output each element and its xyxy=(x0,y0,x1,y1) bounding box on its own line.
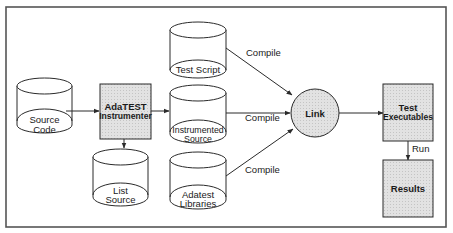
source-code-cylinder: Source Code xyxy=(17,78,72,135)
instrumenter-label-2: Instrumenter xyxy=(99,111,152,121)
compile-label-3: Compile xyxy=(245,164,280,175)
run-label: Run xyxy=(412,143,429,154)
test-script-label: Test Script xyxy=(176,64,221,75)
compile-label-2: Compile xyxy=(245,112,280,123)
test-executables-box: Test Executables xyxy=(383,84,433,141)
adatest-libraries-label-2: Libraries xyxy=(180,198,217,209)
results-box: Results xyxy=(383,160,433,217)
instrumented-source-cylinder: Instrumented Source xyxy=(170,85,226,144)
instrumenter-box: AdaTEST Instrumenter xyxy=(99,84,152,139)
instrumented-source-label-2: Source xyxy=(184,134,212,144)
link-label: Link xyxy=(305,108,325,119)
results-label: Results xyxy=(391,183,425,194)
test-script-cylinder: Test Script xyxy=(170,22,226,78)
adatest-libraries-cylinder: Adatest Libraries xyxy=(170,152,226,209)
test-executables-label-2: Executables xyxy=(383,112,433,122)
source-code-label-2: Code xyxy=(33,124,56,135)
diagram-canvas: Source Code AdaTEST Instrumenter Test Sc… xyxy=(0,0,453,233)
compile-label-1: Compile xyxy=(246,47,281,58)
list-source-label-2: Source xyxy=(105,194,135,205)
link-circle: Link xyxy=(291,89,339,137)
list-source-cylinder: List Source xyxy=(93,149,148,206)
